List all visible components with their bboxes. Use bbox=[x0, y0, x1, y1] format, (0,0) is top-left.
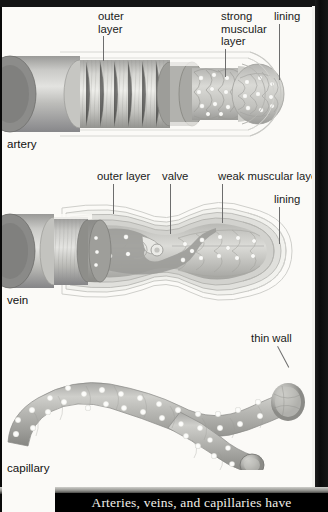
leader-vein-lining bbox=[279, 207, 280, 244]
frame-top-border bbox=[0, 0, 328, 7]
leader-artery-lining bbox=[279, 24, 280, 80]
caption-capillary: capillary bbox=[7, 461, 50, 474]
leader-artery-outer-layer bbox=[103, 36, 104, 61]
frame-right-border bbox=[315, 0, 328, 490]
caption-band-left-gap bbox=[2, 487, 55, 512]
artery-illustration bbox=[2, 46, 309, 142]
label-vein-lining: lining bbox=[274, 193, 300, 206]
figure-page: outer layer strong muscular layer lining… bbox=[0, 0, 328, 512]
leader-artery-muscular-layer bbox=[225, 49, 226, 77]
leader-vein-weak-muscular-layer bbox=[222, 184, 223, 223]
caption-artery: artery bbox=[7, 137, 37, 150]
figure-caption-text: Arteries, veins, and capillaries have bbox=[55, 495, 328, 511]
label-vein-outer-layer: outer layer bbox=[97, 170, 150, 183]
label-capillary-thin-wall: thin wall bbox=[251, 332, 292, 345]
label-artery-lining: lining bbox=[274, 10, 300, 23]
label-artery-muscular-layer: strong muscular layer bbox=[221, 10, 267, 48]
label-vein-weak-muscular-layer: weak muscular layer bbox=[218, 170, 321, 183]
caption-vein: vein bbox=[7, 293, 28, 306]
label-vein-valve: valve bbox=[162, 170, 188, 183]
label-artery-outer-layer: outer layer bbox=[98, 10, 124, 35]
figure-caption-band: Arteries, veins, and capillaries have bbox=[55, 493, 328, 512]
frame-right-inner-line bbox=[312, 6, 315, 490]
vein-illustration bbox=[2, 196, 309, 306]
leader-vein-outer-layer bbox=[113, 184, 114, 214]
leader-vein-valve bbox=[170, 184, 171, 234]
capillary-illustration bbox=[2, 348, 309, 470]
